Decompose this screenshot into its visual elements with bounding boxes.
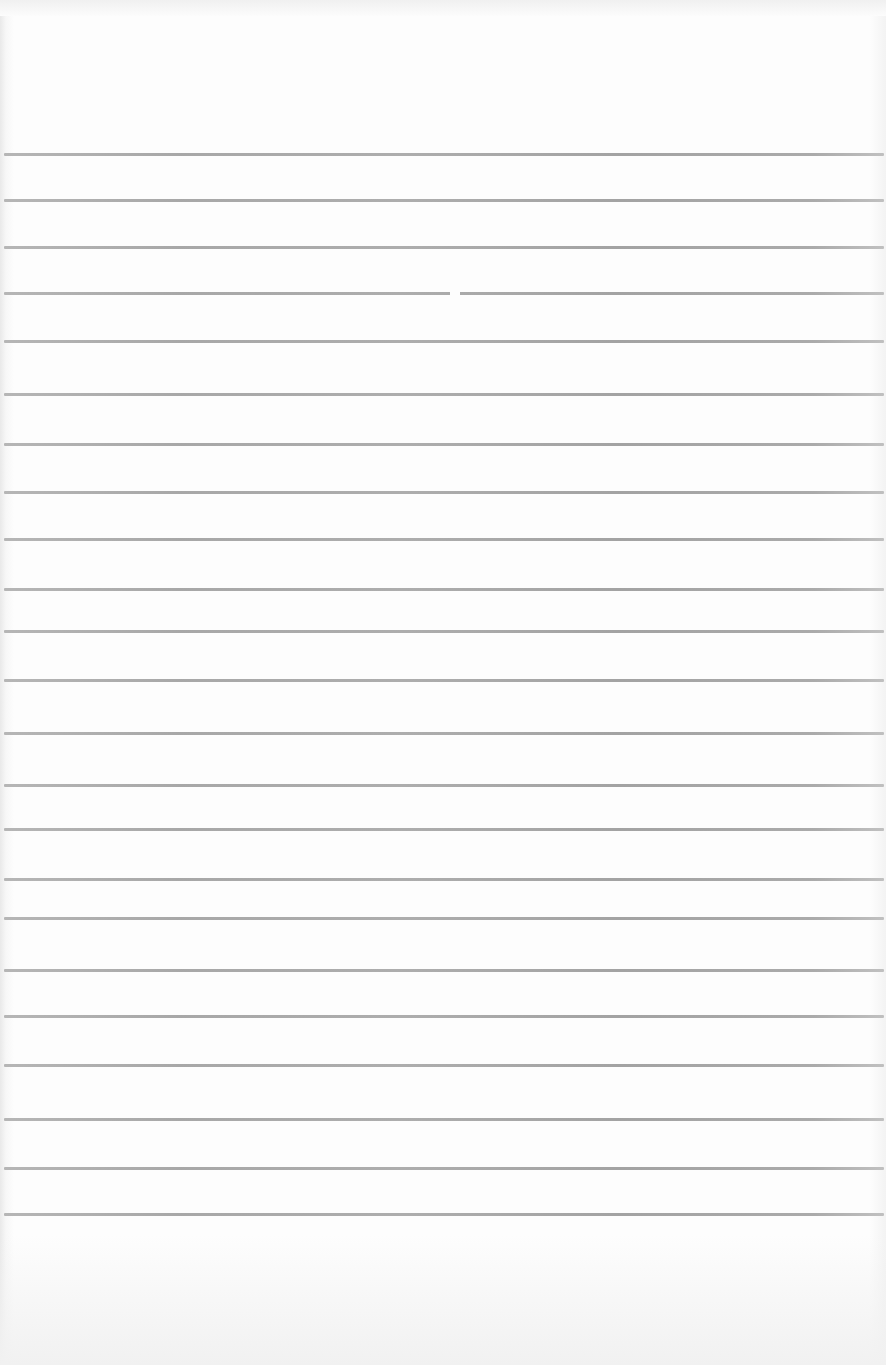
ruled-line (4, 246, 884, 249)
ruled-line (4, 538, 884, 541)
ruled-line (4, 292, 884, 295)
paper-bottom-shading (0, 1235, 886, 1365)
ruled-line (4, 784, 884, 787)
ruled-line (4, 1167, 884, 1170)
ruled-line (4, 153, 884, 156)
ruled-line (4, 1213, 884, 1216)
ruled-paper-page (0, 0, 886, 1365)
ruled-line (4, 828, 884, 831)
ruled-line (4, 1015, 884, 1018)
ruled-line (4, 969, 884, 972)
ruled-line (4, 878, 884, 881)
ruled-line (4, 443, 884, 446)
ruled-line (4, 630, 884, 633)
ruled-line (4, 732, 884, 735)
ruled-line (4, 1118, 884, 1121)
ruled-line (4, 340, 884, 343)
ruled-line (4, 1064, 884, 1067)
ruled-line (4, 588, 884, 591)
ruled-line (4, 679, 884, 682)
paper-top-edge (0, 0, 886, 16)
ruled-line (4, 491, 884, 494)
ruled-line (4, 393, 884, 396)
ruled-line (4, 199, 884, 202)
ruled-line (4, 917, 884, 920)
